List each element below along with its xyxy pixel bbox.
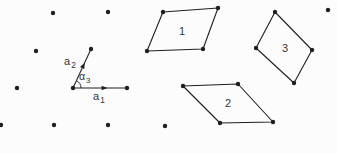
basis-vector-label: a1: [93, 90, 105, 105]
unit-cell-label: 2: [225, 97, 231, 109]
lattice-dot: [236, 82, 240, 86]
lattice-dot: [201, 47, 205, 51]
lattice-dot: [163, 124, 167, 128]
basis-vector-label: a2: [64, 55, 76, 70]
lattice-dot: [310, 48, 314, 52]
unit-cell-label: 3: [282, 42, 288, 54]
lattice-dot: [218, 121, 222, 125]
lattice-dot: [216, 6, 220, 10]
lattice-dot: [89, 47, 93, 51]
lattice-dot: [125, 86, 129, 90]
lattice-dot: [15, 86, 19, 90]
lattice-diagram-svg: 123a1a2α3: [0, 0, 337, 153]
lattice-dot: [71, 86, 75, 90]
basis-vector-arrowhead: [102, 86, 108, 91]
basis-vector-arrowhead: [80, 63, 85, 69]
lattice-dot: [145, 49, 149, 53]
lattice-dot: [181, 84, 185, 88]
lattice-dot: [51, 11, 55, 15]
lattice-dot: [326, 8, 330, 12]
lattice-figure: 123a1a2α3: [0, 0, 337, 153]
angle-label: α3: [79, 70, 91, 85]
lattice-dot: [0, 123, 3, 127]
unit-cell-label: 1: [179, 25, 185, 37]
lattice-dot: [271, 120, 275, 124]
lattice-dot: [273, 10, 277, 14]
lattice-dot: [106, 123, 110, 127]
lattice-dot: [106, 10, 110, 14]
lattice-dot: [34, 49, 38, 53]
lattice-dot: [254, 46, 258, 50]
lattice-dot: [161, 10, 165, 14]
lattice-dot: [292, 81, 296, 85]
lattice-dot: [52, 123, 56, 127]
